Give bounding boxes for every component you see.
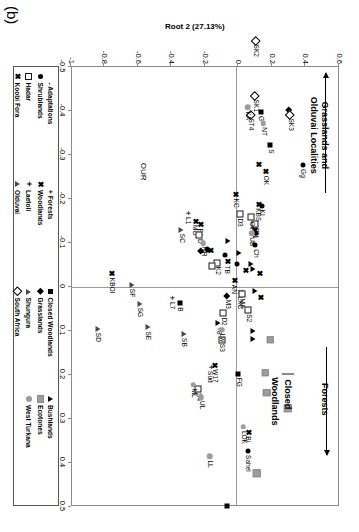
marker-triangle-open bbox=[145, 324, 150, 330]
x-tick-label: -0.1 bbox=[58, 236, 67, 249]
data-point-label: UL bbox=[199, 401, 206, 409]
data-point bbox=[300, 162, 306, 168]
data-point-label: LOK bbox=[240, 431, 247, 444]
legend-swatch bbox=[38, 288, 43, 295]
data-point bbox=[236, 250, 242, 256]
marker-triangle-open bbox=[27, 289, 32, 295]
data-point bbox=[200, 240, 206, 246]
legend-item[interactable]: Ecotones bbox=[36, 396, 45, 500]
data-point-label: SB bbox=[181, 338, 188, 347]
y-tick-mark bbox=[137, 63, 138, 66]
legend-label: Laetoli bbox=[26, 190, 33, 211]
inline-key-label: Closed bbox=[283, 379, 293, 409]
y-tick-mark bbox=[104, 63, 105, 66]
marker-x: ✖ bbox=[241, 267, 249, 274]
legend-item[interactable]: + Forests bbox=[47, 181, 54, 285]
legend-item[interactable]: - Adaptations bbox=[47, 73, 54, 177]
marker-triangle-open bbox=[15, 181, 20, 187]
marker-x: ✖ bbox=[232, 191, 240, 198]
data-point-label: SD bbox=[95, 333, 102, 342]
y-tick-mark bbox=[204, 63, 205, 66]
data-point bbox=[178, 227, 184, 233]
data-point-label: SK2 bbox=[253, 45, 260, 57]
y-tick-label: -0.2 bbox=[201, 50, 210, 64]
forests-annotation: Forests bbox=[319, 383, 329, 416]
data-point bbox=[245, 104, 251, 110]
annotation-arrow-line bbox=[326, 347, 327, 455]
marker-circle-grey bbox=[190, 382, 196, 388]
legend-item[interactable]: ✖Woodlands bbox=[36, 181, 45, 285]
x-tick-mark bbox=[68, 286, 71, 287]
data-point-label: KBOI bbox=[108, 278, 115, 294]
y-tick-mark bbox=[271, 63, 272, 66]
annotation-arrow-head bbox=[323, 72, 329, 78]
legend-label: - Adaptations bbox=[47, 83, 54, 125]
data-point-label: SC bbox=[178, 234, 185, 243]
legend-item[interactable]: Closed Woodlands bbox=[47, 288, 54, 392]
x-tick-label: -0.3 bbox=[58, 148, 67, 161]
marker-plus: + bbox=[24, 181, 34, 186]
legend-label: Shungura bbox=[26, 298, 33, 329]
data-point-label: Sahel bbox=[245, 455, 252, 472]
legend-item[interactable]: South Africa bbox=[13, 288, 22, 392]
marker-square-open bbox=[196, 232, 203, 239]
marker-circle-grey bbox=[200, 240, 206, 246]
data-point-label: Gg bbox=[300, 169, 307, 178]
legend-item[interactable]: +Laetoli bbox=[24, 181, 34, 285]
legend-item[interactable]: Shrublands bbox=[36, 73, 45, 177]
data-point bbox=[250, 336, 256, 342]
legend-swatch bbox=[26, 73, 33, 80]
data-point bbox=[245, 448, 251, 454]
marker-circle-grey bbox=[199, 394, 205, 400]
marker-x: ✖ bbox=[254, 201, 262, 208]
marker-square-open bbox=[220, 310, 227, 317]
legend-item[interactable]: Olduvai bbox=[13, 181, 22, 285]
data-point bbox=[252, 93, 258, 99]
marker-circle-grey bbox=[249, 231, 255, 237]
legend-item[interactable]: Bushlands bbox=[47, 396, 54, 500]
marker-square-filled bbox=[224, 504, 229, 509]
x-tick-label: 0.1 bbox=[58, 325, 67, 335]
data-point-label: AN bbox=[231, 285, 238, 294]
legend-item[interactable]: Shungura bbox=[24, 288, 34, 392]
legend-swatch: ✖ bbox=[36, 181, 45, 188]
data-point bbox=[267, 337, 273, 343]
legend-item[interactable]: West Turkana bbox=[24, 396, 34, 500]
legend-item[interactable]: Grasslands bbox=[36, 288, 45, 392]
marker-circle-grey bbox=[261, 121, 267, 127]
marker-x: ✖ bbox=[261, 168, 269, 175]
legend-swatch bbox=[38, 73, 43, 80]
marker-triangle-open bbox=[179, 227, 184, 233]
data-point: ✖ bbox=[242, 267, 248, 273]
data-point bbox=[249, 230, 255, 236]
x-tick-label: -0.4 bbox=[58, 104, 67, 117]
legend-item[interactable]: ✖Koobi Fora bbox=[13, 73, 22, 177]
legend-label: South Africa bbox=[14, 298, 21, 337]
scatter-plot-area: +L1+L7SGBFGT8GgSahelKICh✖Bi✖OK✖✖KBS✖K1✖✖… bbox=[71, 66, 339, 506]
data-point-label: NR bbox=[200, 247, 207, 256]
marker-triangle-filled bbox=[236, 250, 241, 256]
marker-square-filled bbox=[236, 371, 241, 376]
legend-label: West Turkana bbox=[26, 405, 33, 448]
data-point bbox=[145, 324, 151, 330]
y-tick-label: 0.2 bbox=[268, 50, 277, 64]
data-point-label: SF bbox=[129, 289, 136, 297]
data-point-label: S bbox=[267, 149, 274, 153]
x-tick-mark bbox=[68, 330, 71, 331]
marker-square-open bbox=[209, 262, 216, 269]
inline-key-swatch bbox=[283, 373, 293, 375]
data-point-label: ST4 bbox=[248, 119, 255, 131]
marker-circle-filled bbox=[235, 262, 240, 267]
data-point: ✖ bbox=[108, 271, 114, 277]
data-point-label: Lw bbox=[219, 334, 226, 342]
data-point bbox=[225, 238, 231, 244]
legend-swatch bbox=[37, 396, 45, 403]
x-tick-label: 0.2 bbox=[58, 369, 67, 379]
legend-item[interactable]: Hadar bbox=[24, 73, 34, 177]
data-point-label: S3 bbox=[219, 344, 226, 352]
data-point-label: KBS bbox=[255, 208, 262, 221]
y-tick-label: -0.8 bbox=[100, 50, 109, 64]
data-point: + bbox=[184, 210, 190, 216]
x-tick-label: 0.4 bbox=[58, 457, 67, 467]
marker-square-open bbox=[26, 73, 33, 80]
